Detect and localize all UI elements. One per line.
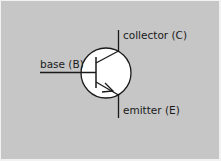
transistor-diagram: collector (C) base (B) emitter (E) [0,0,221,161]
collector-label: collector (C) [123,29,187,41]
emitter-label: emitter (E) [123,104,180,116]
base-label: base (B) [40,58,84,70]
